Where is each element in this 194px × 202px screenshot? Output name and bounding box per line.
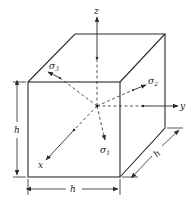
- width-dimension: h: [28, 179, 120, 195]
- width-label: h: [70, 184, 76, 194]
- x-axis-label: x: [38, 160, 43, 170]
- y-axis: y: [97, 101, 186, 111]
- height-label: h: [14, 125, 20, 135]
- z-axis-label: z: [93, 6, 99, 16]
- depth-label: h: [151, 148, 162, 159]
- sigma3-label: σ3: [49, 61, 59, 72]
- depth-dimension: h: [122, 128, 183, 177]
- sigma1-vector: σ1: [97, 106, 110, 156]
- sigma3-vector: σ3: [48, 61, 97, 106]
- origin-point: [96, 105, 99, 108]
- sigma2-vector: σ2: [97, 76, 158, 106]
- y-axis-label: y: [179, 101, 186, 111]
- x-axis: x: [38, 106, 97, 170]
- height-dimension: h: [13, 82, 26, 177]
- sigma2-label: σ2: [148, 76, 158, 87]
- cube-stress-diagram: z y x σ1 σ2 σ3 h: [0, 0, 194, 202]
- sigma1-label: σ1: [100, 145, 110, 156]
- z-axis: z: [93, 6, 99, 106]
